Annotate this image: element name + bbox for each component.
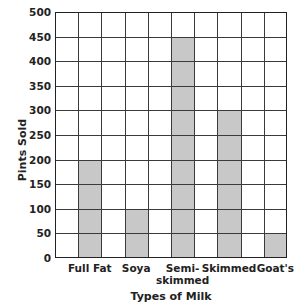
y-tick-label: 0	[21, 252, 51, 264]
plot-frame	[55, 12, 287, 258]
y-tick-label: 500	[21, 6, 51, 18]
y-tick-label: 450	[21, 31, 51, 43]
y-tick-label: 100	[21, 203, 51, 215]
y-axis-label: Pints Sold	[16, 119, 29, 181]
x-axis-label: Types of Milk	[130, 290, 211, 302]
x-tick-label: Goat's	[247, 262, 303, 274]
y-tick-label: 350	[21, 80, 51, 92]
plot-area	[55, 12, 287, 258]
y-tick-label: 50	[21, 227, 51, 239]
y-tick-label: 400	[21, 55, 51, 67]
y-tick-label: 300	[21, 104, 51, 116]
